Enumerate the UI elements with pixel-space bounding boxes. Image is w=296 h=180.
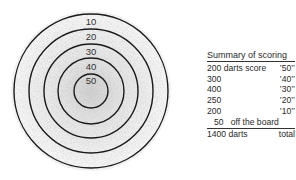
row-count: 300 (207, 74, 221, 85)
summary-row: 300 ’40’’ (207, 74, 295, 85)
row-count: 200 (207, 106, 221, 117)
row-count: 400 (207, 84, 221, 95)
row-score: ’10’’ (280, 106, 295, 117)
ring-label-10: 10 (86, 16, 97, 27)
summary-title: Summary of scoring (207, 50, 295, 62)
row-count-desc: 50 off the board (207, 117, 279, 128)
row-score: ’20’’ (280, 95, 295, 106)
row-score: ’30’’ (280, 84, 295, 95)
scoring-summary-table: Summary of scoring 200 darts score ’50’’… (207, 50, 295, 139)
row-count: 250 (207, 95, 221, 106)
dartboard-diagram: 1020304050 (0, 0, 190, 180)
summary-row-off-board: 50 off the board (207, 117, 295, 129)
summary-row: 400 ’30’’ (207, 84, 295, 95)
summary-total-row: 1400 darts total (207, 129, 295, 140)
row-count-desc: 200 darts score (207, 63, 266, 74)
summary-row: 200 darts score ’50’’ (207, 63, 295, 74)
ring-label-50: 50 (86, 75, 97, 86)
ring-label-20: 20 (86, 31, 97, 42)
ring-label-40: 40 (86, 61, 97, 72)
total-label: total (279, 129, 295, 140)
row-score: ’40’’ (280, 74, 295, 85)
summary-row: 250 ’20’’ (207, 95, 295, 106)
total-count: 1400 darts (207, 129, 248, 140)
ring-label-30: 30 (86, 46, 97, 57)
row-score: ’50’’ (280, 63, 295, 74)
summary-row: 200 ’10’’ (207, 106, 295, 117)
